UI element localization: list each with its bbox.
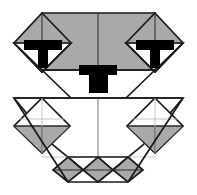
lower-assembly — [14, 98, 183, 182]
geometric-figure — [0, 0, 197, 195]
figure-canvas — [0, 0, 197, 195]
tab-center-icon — [79, 65, 117, 93]
lower-right-diamond-shade-b — [155, 126, 183, 153]
lower-left-diamond-shade-a — [14, 126, 42, 153]
